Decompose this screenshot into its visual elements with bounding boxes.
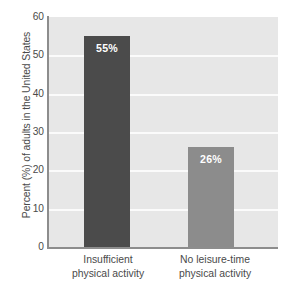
x-axis-line (47, 247, 278, 249)
y-tick-label-40: 40 (18, 89, 44, 99)
bar-value-label-1: 26% (188, 153, 234, 165)
y-tick-label-60: 60 (18, 12, 44, 22)
y-tick-label-30: 30 (18, 127, 44, 137)
y-tick-label-50: 50 (18, 50, 44, 60)
x-category-label-1-line-1: No leisure-time (152, 253, 278, 267)
x-category-label-1-line-2: physical activity (152, 267, 278, 281)
x-category-label-0-line-2: physical activity (48, 267, 168, 281)
x-category-label-0-line-1: Insufficient (48, 253, 168, 267)
y-tick-label-20: 20 (18, 165, 44, 175)
y-tick-label-0: 0 (18, 242, 44, 252)
plot-area: 55% 26% (49, 17, 278, 247)
y-axis-tick-labels: 60 50 40 30 20 10 0 (14, 0, 44, 290)
bar-chart: Percent (%) of adults in the United Stat… (0, 0, 285, 290)
x-category-label-1: No leisure-time physical activity (152, 253, 278, 280)
x-category-label-0: Insufficient physical activity (48, 253, 168, 280)
y-tick-label-10: 10 (18, 204, 44, 214)
bar-no-leisure-time-physical-activity[interactable]: 26% (188, 147, 234, 247)
bar-value-label-0: 55% (84, 42, 130, 54)
y-axis-line (47, 16, 49, 249)
bar-insufficient-physical-activity[interactable]: 55% (84, 36, 130, 247)
